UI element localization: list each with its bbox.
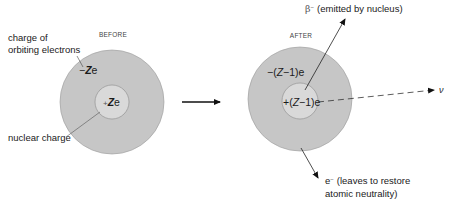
beta-decay-diagram: BEFORE charge of orbiting electrons −Ze …: [0, 0, 450, 205]
electron-charge-label-line1: charge of: [8, 32, 48, 43]
after-title: AFTER: [290, 32, 312, 39]
electron-charge-label-line2: orbiting electrons: [8, 44, 81, 55]
electron-arrow: [301, 148, 318, 178]
nuclear-charge-label: nuclear charge: [8, 132, 71, 143]
neutrino-label: ν: [439, 85, 444, 95]
before-title: BEFORE: [99, 31, 127, 38]
after-electron-charge: −(Z−1)e: [267, 66, 305, 78]
beta-label: β−(emitted by nucleus): [305, 3, 403, 14]
electron-label-line1: e−(leaves to restore: [325, 175, 410, 186]
before-electron-charge: −Ze: [79, 64, 98, 76]
electron-label-line2: atomic neutrality): [325, 188, 397, 199]
after-nuclear-charge: +(Z−1)e: [283, 96, 321, 108]
